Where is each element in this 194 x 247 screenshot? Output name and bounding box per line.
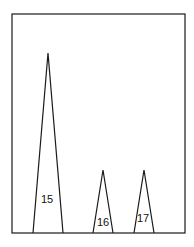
peak-label: 16 bbox=[97, 216, 109, 228]
peak-label: 15 bbox=[41, 193, 53, 205]
peak-15 bbox=[33, 53, 63, 233]
peak-chart: 151617 bbox=[0, 0, 194, 247]
peak-label: 17 bbox=[137, 212, 149, 224]
